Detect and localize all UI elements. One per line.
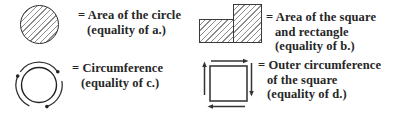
square-perimeter-arrows-icon [199,55,257,113]
hatched-square-part [233,4,262,43]
legend-line: (equality of b.) [266,39,376,54]
legend-item-circumference: = Circumference (equality of c.) [72,61,163,90]
legend-line: = Area of the square [266,10,376,25]
legend-item-outer-circumference: = Outer circumference of the square (equ… [258,58,381,102]
legend-line: of the square [258,73,381,88]
hatched-circle-icon [20,5,59,44]
hatched-square-rectangle-icon [199,4,263,43]
legend-line: (equality of c.) [72,76,163,91]
legend-item-area-square-rectangle: = Area of the square and rectangle (equa… [266,10,376,54]
legend-line: = Outer circumference [258,58,381,73]
legend-line: = Circumference [72,61,163,76]
legend-line: (equality of d.) [258,87,381,102]
hatched-rectangle-part [199,19,234,43]
legend-line: = Area of the circle [78,8,181,23]
legend-line: and rectangle [266,25,376,40]
circle-rotation-arrows-icon [13,57,65,111]
legend-item-area-circle: = Area of the circle (equality of a.) [78,8,181,37]
legend-line: (equality of a.) [78,23,181,38]
legend-panel: = Area of the circle (equality of a.) = … [0,0,394,114]
